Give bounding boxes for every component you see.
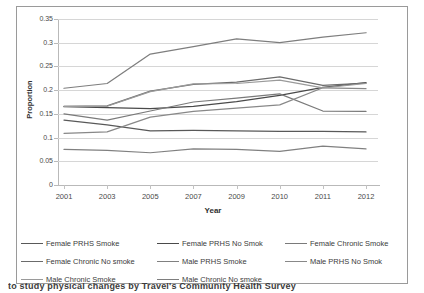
y-tick-label: 0.3 [19,39,53,47]
series-line [64,146,366,153]
x-tick-mark [107,185,108,189]
x-tick-label: 2005 [130,192,170,201]
legend-line-swatch [21,261,43,262]
x-tick-mark [366,185,367,189]
x-tick-mark [150,185,151,189]
chart-legend: Female PRHS SmokeFemale PRHS No SmokFema… [17,229,409,285]
figure-frame: 00.050.10.150.20.250.30.35 2001200320052… [16,6,408,284]
legend-line-swatch [285,243,307,244]
legend-item[interactable]: Female Chronic Smoke [285,235,388,251]
legend-line-swatch [157,243,179,244]
y-tick-label: 0.05 [19,157,53,165]
legend-label: Female PRHS Smoke [46,239,119,248]
x-tick-mark [323,185,324,189]
legend-item[interactable]: Female Chronic No smoke [21,253,135,269]
x-tick-label: 2012 [346,192,386,201]
legend-line-swatch [157,261,179,262]
legend-item[interactable]: Female PRHS No Smok [157,235,263,251]
caption-bleed-text: to study physical changes by Travel's Co… [8,283,418,291]
series-line [64,120,366,132]
legend-label: Female PRHS No Smok [182,239,263,248]
legend-line-swatch [157,279,179,280]
x-tick-label: 2001 [44,192,84,201]
y-axis-labels: 00.050.10.150.20.250.30.35 [17,7,53,207]
y-tick-mark [54,185,58,186]
y-tick-label: 0.1 [19,134,53,142]
legend-label: Male PRHS Smoke [182,257,247,266]
legend-line-swatch [21,243,43,244]
series-line [64,80,366,106]
legend-item[interactable]: Female PRHS Smoke [21,235,119,251]
legend-line-swatch [285,261,307,262]
x-tick-label: 2003 [87,192,127,201]
chart-area: 00.050.10.150.20.250.30.35 2001200320052… [17,7,409,229]
caption-bleed: to study physical changes by Travel's Co… [8,283,418,293]
y-tick-label: 0 [19,181,53,189]
series-lines [58,19,378,185]
x-tick-label: 2011 [303,192,343,201]
x-tick-label: 2009 [217,192,257,201]
x-axis-title: Year [17,206,409,215]
x-tick-label: 2007 [173,192,213,201]
x-tick-mark [193,185,194,189]
x-tick-mark [237,185,238,189]
legend-label: Female Chronic Smoke [310,239,388,248]
series-line [64,94,366,120]
legend-line-swatch [21,279,43,280]
legend-label: Female Chronic No smoke [46,257,135,266]
series-line [64,77,366,106]
series-line [64,33,366,89]
y-axis-title: Proportion [25,70,34,130]
y-tick-label: 0.35 [19,15,53,23]
x-tick-mark [64,185,65,189]
legend-item[interactable]: Male PRHS Smoke [157,253,247,269]
legend-label: Male PRHS No Smok [310,257,382,266]
legend-item[interactable]: Male PRHS No Smok [285,253,382,269]
x-tick-label: 2010 [260,192,300,201]
x-tick-mark [280,185,281,189]
